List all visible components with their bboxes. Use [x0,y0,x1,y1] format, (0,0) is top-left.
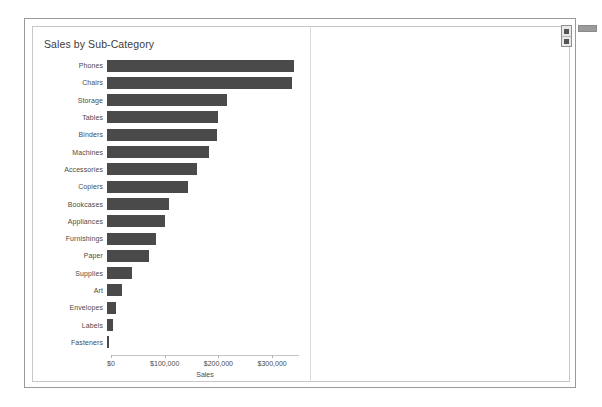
bar-mark[interactable] [107,302,116,314]
x-axis-title: Sales [111,371,299,378]
bar-track [107,178,299,195]
bar-category-label: Bookcases [44,201,107,208]
square-glyph-icon [564,29,569,34]
bar-row[interactable]: Machines [44,144,299,161]
bar-track [107,92,299,109]
pane-splitter-handle[interactable] [578,25,597,32]
bar-row[interactable]: Art [44,282,299,299]
bar-track [107,109,299,126]
toolbar-button-bottom[interactable] [562,36,571,46]
bar-mark[interactable] [107,215,165,227]
axis-tick-label: $200,000 [204,360,233,367]
bar-row[interactable]: Fasteners [44,334,299,351]
bar-row[interactable]: Supplies [44,265,299,282]
bar-mark[interactable] [107,77,292,89]
axis-tick-label: $100,000 [150,360,179,367]
bar-mark[interactable] [107,336,109,348]
bar-mark[interactable] [107,250,149,262]
bar-track [107,213,299,230]
bar-category-label: Fasteners [44,339,107,346]
bar-track [107,230,299,247]
bar-track [107,247,299,264]
empty-right-pane [311,27,569,381]
bar-category-label: Binders [44,131,107,138]
bar-row[interactable]: Appliances [44,213,299,230]
bar-mark[interactable] [107,198,169,210]
bar-mark[interactable] [107,94,227,106]
bar-track [107,126,299,143]
axis-tick-label: $300,000 [258,360,287,367]
toolbar-button-top[interactable] [562,26,571,36]
bar-track [107,299,299,316]
bar-track [107,161,299,178]
bar-track [107,57,299,74]
bar-category-label: Chairs [44,79,107,86]
x-axis-line [111,355,299,356]
bar-mark[interactable] [107,233,156,245]
bar-mark[interactable] [107,60,294,72]
bar-category-label: Machines [44,149,107,156]
bar-row[interactable]: Storage [44,92,299,109]
bar-mark[interactable] [107,284,122,296]
bar-category-label: Storage [44,97,107,104]
chart-plot-region: PhonesChairsStorageTablesBindersMachines… [44,57,299,377]
bar-mark[interactable] [107,146,209,158]
bar-row[interactable]: Binders [44,126,299,143]
square-glyph-icon [564,39,569,44]
axis-tick-mark [218,355,219,358]
worksheet-pane: Sales by Sub-Category PhonesChairsStorag… [33,27,310,381]
bar-category-label: Accessories [44,166,107,173]
bar-row[interactable]: Phones [44,57,299,74]
bar-category-label: Tables [44,114,107,121]
bar-row[interactable]: Tables [44,109,299,126]
bar-category-label: Envelopes [44,304,107,311]
bar-mark[interactable] [107,163,197,175]
bar-row[interactable]: Bookcases [44,195,299,212]
bar-category-label: Labels [44,322,107,329]
side-toolbar[interactable] [561,25,572,47]
bar-track [107,282,299,299]
bar-track [107,74,299,91]
axis-tick-mark [272,355,273,358]
bar-track [107,265,299,282]
axis-tick-mark [165,355,166,358]
bar-track [107,144,299,161]
dashboard-panel: Sales by Sub-Category PhonesChairsStorag… [32,26,570,382]
bar-category-label: Phones [44,62,107,69]
bar-mark[interactable] [107,111,218,123]
chart-title: Sales by Sub-Category [44,38,154,50]
axis-tick-label: $0 [107,360,115,367]
bar-row[interactable]: Copiers [44,178,299,195]
bar-row[interactable]: Labels [44,317,299,334]
bar-category-label: Copiers [44,183,107,190]
bar-row[interactable]: Accessories [44,161,299,178]
bar-mark[interactable] [107,129,217,141]
bar-row[interactable]: Chairs [44,74,299,91]
bar-mark[interactable] [107,319,113,331]
bar-category-label: Furnishings [44,235,107,242]
bar-track [107,195,299,212]
bar-mark[interactable] [107,181,188,193]
bar-category-label: Art [44,287,107,294]
bar-category-label: Supplies [44,270,107,277]
axis-tick-mark [111,355,112,358]
bar-category-label: Appliances [44,218,107,225]
bar-track [107,334,299,351]
application-window: Sales by Sub-Category PhonesChairsStorag… [24,18,576,388]
bar-mark[interactable] [107,267,132,279]
bar-row[interactable]: Paper [44,247,299,264]
bar-category-label: Paper [44,252,107,259]
bar-row[interactable]: Envelopes [44,299,299,316]
bar-track [107,317,299,334]
bars-area: PhonesChairsStorageTablesBindersMachines… [44,57,299,355]
bar-row[interactable]: Furnishings [44,230,299,247]
